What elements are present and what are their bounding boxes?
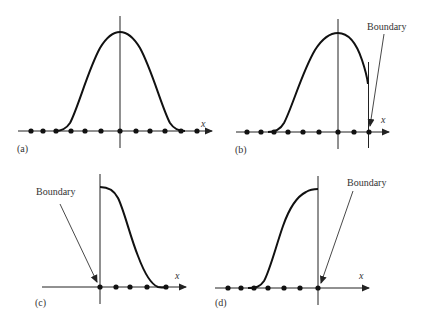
boundary-label: Boundary (347, 177, 386, 188)
panel-label: (d) (215, 297, 227, 309)
boundary-label: Boundary (367, 21, 406, 32)
half-kernel-curve (248, 189, 318, 288)
kernel-boundary-figure: x (a) Boundary x (b) (0, 0, 429, 324)
half-kernel-curve (100, 187, 167, 287)
x-axis-label: x (380, 114, 386, 125)
boundary-pointer-arrow (370, 34, 384, 126)
boundary-pointer-arrow (60, 204, 97, 282)
panel-b: Boundary x (b) (235, 19, 406, 156)
panel-c: Boundary x (c) (35, 174, 186, 309)
panel-label: (c) (35, 297, 46, 309)
x-axis-label: x (174, 270, 180, 281)
panel-label: (b) (235, 144, 247, 156)
boundary-pointer-arrow (321, 191, 353, 283)
panel-d: Boundary x (d) (215, 176, 386, 309)
x-axis-label: x (358, 270, 364, 281)
panel-label: (a) (17, 143, 28, 155)
truncated-kernel-curve (268, 33, 368, 132)
x-axis-label: x (200, 118, 206, 129)
boundary-label: Boundary (36, 186, 75, 197)
panel-a: x (a) (17, 16, 212, 155)
